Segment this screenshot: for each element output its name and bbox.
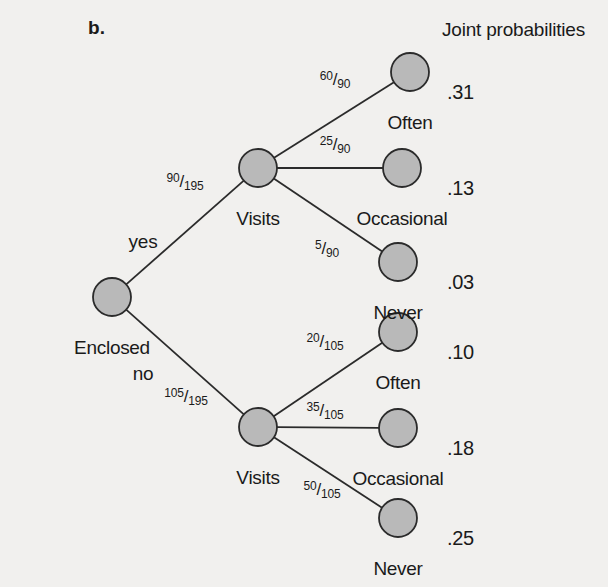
fraction-denominator: 195 bbox=[184, 179, 203, 193]
fraction-numerator: 50 bbox=[304, 479, 317, 493]
tree-node-yes-never bbox=[379, 243, 417, 281]
node-label-visits-yes: Visits bbox=[236, 209, 279, 228]
fraction-denominator: 105 bbox=[321, 487, 340, 501]
node-layer bbox=[93, 53, 429, 537]
branch-fraction-root-to-visits-yes: 90/195 bbox=[167, 172, 204, 193]
node-label-yes-never: Never bbox=[373, 303, 422, 322]
branch-fraction-visits-no-to-no-occasional: 35/105 bbox=[307, 401, 344, 422]
tree-node-visits-no bbox=[239, 408, 277, 446]
fraction-denominator: 105 bbox=[324, 339, 343, 353]
fraction-denominator: 90 bbox=[337, 77, 350, 91]
joint-probability-yes-occasional: .13 bbox=[447, 178, 474, 198]
probability-tree-figure: b. Joint probabilities EnclosedVisitsVis… bbox=[0, 0, 608, 587]
tree-node-no-never bbox=[379, 499, 417, 537]
branch-word-yes: yes bbox=[129, 232, 158, 251]
branch-fraction-visits-yes-to-yes-never: 5/90 bbox=[315, 239, 339, 260]
node-label-yes-often: Often bbox=[388, 113, 433, 132]
branch-fraction-root-to-visits-no: 105/195 bbox=[164, 387, 207, 408]
joint-probability-no-never: .25 bbox=[447, 528, 474, 548]
tree-node-visits-yes bbox=[239, 149, 277, 187]
joint-probability-yes-never: .03 bbox=[447, 272, 474, 292]
fraction-denominator: 195 bbox=[188, 394, 207, 408]
node-label-visits-no: Visits bbox=[236, 468, 279, 487]
fraction-numerator: 35 bbox=[307, 400, 320, 414]
tree-node-no-occasional bbox=[379, 409, 417, 447]
branch-fraction-visits-yes-to-yes-often: 60/90 bbox=[320, 70, 350, 91]
joint-probability-no-often: .10 bbox=[447, 342, 474, 362]
node-label-yes-occasional: Occasional bbox=[357, 209, 448, 228]
fraction-numerator: 25 bbox=[320, 134, 333, 148]
branch-fraction-visits-yes-to-yes-occasional: 25/90 bbox=[320, 135, 350, 156]
fraction-denominator: 90 bbox=[326, 246, 339, 260]
branch-fraction-visits-no-to-no-often: 20/105 bbox=[307, 332, 344, 353]
joint-probability-no-occasional: .18 bbox=[447, 438, 474, 458]
tree-node-yes-occasional bbox=[383, 149, 421, 187]
fraction-denominator: 90 bbox=[337, 142, 350, 156]
branch-fraction-visits-no-to-no-never: 50/105 bbox=[304, 480, 341, 501]
joint-probability-yes-often: .31 bbox=[447, 82, 474, 102]
tree-edge-visits-no-to-no-occasional bbox=[277, 427, 379, 428]
fraction-numerator: 20 bbox=[307, 331, 320, 345]
fraction-numerator: 105 bbox=[164, 386, 183, 400]
branch-word-no: no bbox=[133, 364, 154, 383]
tree-node-yes-often bbox=[391, 53, 429, 91]
fraction-numerator: 60 bbox=[320, 69, 333, 83]
node-label-root: Enclosed bbox=[74, 338, 150, 357]
node-label-no-never: Never bbox=[373, 559, 422, 578]
fraction-denominator: 105 bbox=[324, 408, 343, 422]
fraction-numerator: 90 bbox=[167, 171, 180, 185]
node-label-no-occasional: Occasional bbox=[353, 469, 444, 488]
tree-node-root bbox=[93, 278, 131, 316]
node-label-no-often: Often bbox=[376, 373, 421, 392]
